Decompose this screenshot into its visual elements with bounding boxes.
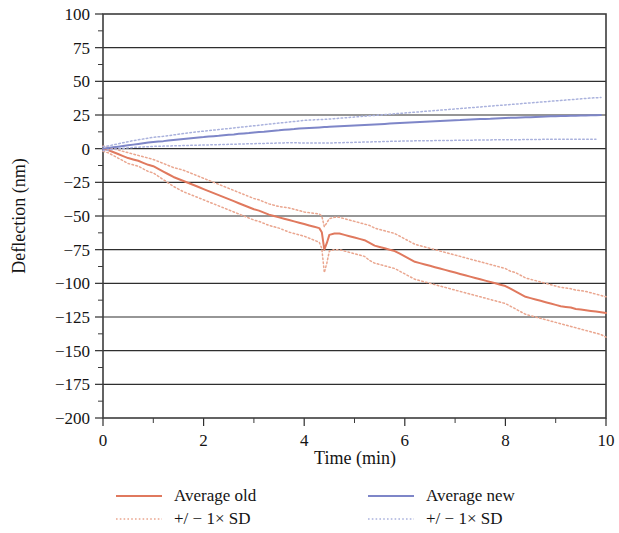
chart-figure: −200−175−150−125−100−75−50−250255075100 … xyxy=(0,0,619,533)
y-tick-label: 75 xyxy=(73,39,90,58)
y-tick-label: −175 xyxy=(55,375,90,394)
gridlines xyxy=(103,48,606,385)
x-tick-label: 4 xyxy=(300,431,309,450)
y-tick-label: −50 xyxy=(63,207,90,226)
y-tick-label: 100 xyxy=(65,5,91,24)
y-tick-label: −200 xyxy=(55,409,90,428)
x-tick-label: 6 xyxy=(401,431,410,450)
series-average-new xyxy=(103,115,601,149)
deflection-vs-time-chart: −200−175−150−125−100−75−50−250255075100 … xyxy=(0,0,619,533)
data-series-group xyxy=(103,97,606,337)
y-tick-label: 0 xyxy=(82,140,91,159)
y-tick-label: −150 xyxy=(55,342,90,361)
x-tick-label: 10 xyxy=(598,431,615,450)
y-axis-ticks xyxy=(95,14,103,418)
legend-label: +/ − 1× SD xyxy=(174,509,250,528)
x-axis-title: Time (min) xyxy=(314,448,396,469)
x-tick-label: 0 xyxy=(99,431,108,450)
series-1-sd-upper-old xyxy=(103,146,606,297)
y-tick-label: 25 xyxy=(73,106,90,125)
y-tick-label: −100 xyxy=(55,274,90,293)
y-tick-label: −125 xyxy=(55,308,90,327)
series-average-old xyxy=(103,149,606,313)
chart-legend: Average oldAverage new+/ − 1× SD+/ − 1× … xyxy=(116,486,516,528)
y-tick-label: −75 xyxy=(63,241,90,260)
x-axis-ticks xyxy=(103,418,606,426)
legend-label: +/ − 1× SD xyxy=(426,509,502,528)
y-tick-label: 50 xyxy=(73,72,90,91)
y-axis-title: Deflection (nm) xyxy=(9,158,30,273)
x-tick-label: 2 xyxy=(199,431,208,450)
y-axis-tick-labels: −200−175−150−125−100−75−50−250255075100 xyxy=(55,5,90,428)
legend-label: Average old xyxy=(174,486,257,505)
x-tick-label: 8 xyxy=(501,431,510,450)
legend-label: Average new xyxy=(426,486,516,505)
y-tick-label: −25 xyxy=(63,173,90,192)
